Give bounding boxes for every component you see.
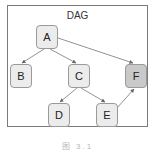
edge-c-e: [81, 88, 105, 102]
edge-c-d: [60, 88, 77, 102]
node-c: C: [68, 64, 90, 88]
edge-a-c: [50, 49, 76, 63]
figure-caption: 图 3.1: [0, 140, 155, 151]
node-d: D: [48, 103, 70, 127]
node-label: D: [55, 109, 63, 121]
node-b: B: [10, 64, 32, 88]
node-label: B: [17, 70, 24, 82]
node-f: F: [125, 64, 147, 88]
node-e: E: [96, 103, 118, 127]
edge-a-b: [22, 49, 44, 63]
node-label: E: [103, 109, 110, 121]
node-label: A: [43, 31, 50, 43]
node-a: A: [36, 25, 58, 49]
node-label: C: [75, 70, 83, 82]
node-label: F: [133, 70, 140, 82]
edge-e-f: [117, 89, 134, 108]
